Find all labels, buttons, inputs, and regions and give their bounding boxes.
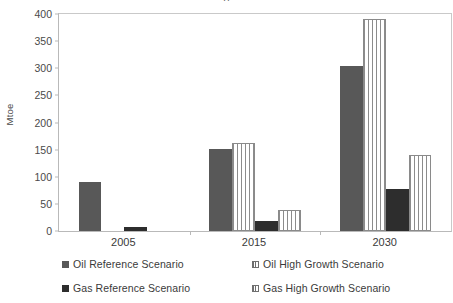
bar-2015-oil-reference-scenario	[209, 149, 232, 231]
plot-inner: 050100150200250300350400	[59, 14, 451, 231]
y-tick-label-150: 150	[5, 144, 59, 156]
y-tick-mark-200	[55, 122, 59, 123]
legend-swatch-icon	[252, 261, 259, 268]
legend-item-oil-reference-scenario[interactable]: Oil Reference Scenario	[62, 258, 184, 270]
chart-title-fragment: g	[0, 0, 453, 1]
y-tick-label-400: 400	[5, 8, 59, 20]
y-tick-mark-300	[55, 68, 59, 69]
x-tick-mark-2030	[320, 231, 321, 235]
legend-item-gas-high-growth-scenario[interactable]: Gas High Growth Scenario	[252, 282, 390, 294]
bar-2005-gas-reference-scenario	[124, 227, 147, 231]
y-tick-mark-350	[55, 41, 59, 42]
legend-item-label: Gas High Growth Scenario	[263, 282, 390, 294]
bar-2005-oil-reference-scenario	[79, 182, 102, 231]
y-tick-mark-0	[55, 231, 59, 232]
bar-chart: g Mtoe 050100150200250300350400 20052015…	[0, 0, 453, 303]
y-tick-label-100: 100	[5, 171, 59, 183]
y-tick-label-0: 0	[5, 225, 59, 237]
legend-swatch-icon	[252, 285, 259, 292]
plot-area: 050100150200250300350400	[58, 13, 452, 232]
y-tick-mark-150	[55, 149, 59, 150]
y-tick-label-300: 300	[5, 62, 59, 74]
bar-2015-gas-reference-scenario	[255, 221, 278, 231]
legend-swatch-icon	[62, 285, 69, 292]
y-tick-mark-100	[55, 176, 59, 177]
y-tick-label-200: 200	[5, 117, 59, 129]
x-axis-label-2005: 2005	[111, 236, 135, 248]
legend-item-label: Oil High Growth Scenario	[263, 258, 384, 270]
legend-item-label: Gas Reference Scenario	[73, 282, 190, 294]
bar-2030-gas-high-growth-scenario	[409, 155, 432, 231]
x-tick-mark-2015	[190, 231, 191, 235]
legend-item-gas-reference-scenario[interactable]: Gas Reference Scenario	[62, 282, 190, 294]
chart-legend: Oil Reference ScenarioGas Reference Scen…	[0, 256, 453, 303]
y-tick-mark-250	[55, 95, 59, 96]
y-tick-label-250: 250	[5, 89, 59, 101]
y-tick-label-50: 50	[5, 198, 59, 210]
bar-2030-oil-high-growth-scenario	[363, 19, 386, 231]
bar-2030-gas-reference-scenario	[386, 189, 409, 231]
legend-swatch-icon	[62, 261, 69, 268]
y-tick-label-350: 350	[5, 35, 59, 47]
y-tick-mark-50	[55, 203, 59, 204]
x-axis-label-2015: 2015	[242, 236, 266, 248]
y-tick-mark-400	[55, 14, 59, 15]
legend-item-oil-high-growth-scenario[interactable]: Oil High Growth Scenario	[252, 258, 384, 270]
bar-2015-gas-high-growth-scenario	[278, 210, 301, 231]
bar-2030-oil-reference-scenario	[340, 66, 363, 231]
x-axis-label-2030: 2030	[372, 236, 396, 248]
bar-2015-oil-high-growth-scenario	[232, 143, 255, 231]
legend-item-label: Oil Reference Scenario	[73, 258, 184, 270]
